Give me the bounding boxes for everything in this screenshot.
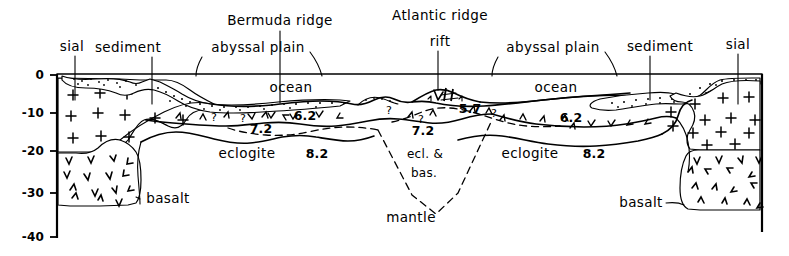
velocity-7-2-left: 7.2 [250,121,273,136]
leader-abyssal-plain-left-b [310,52,322,76]
sial-block-right [670,80,760,150]
velocity-8-2-right: 8.2 [583,146,606,161]
label-eclogite-right: eclogite [502,145,559,161]
label-basalt-right: basalt [619,194,663,210]
leader-abyssal-plain-right-a [492,57,498,76]
label-rift: rift [430,33,451,49]
label-sediment-left: sediment [95,39,161,55]
question-mark-3: ? [418,113,424,126]
label-sial-left: sial [60,38,84,54]
label-ecl-bas-1: ecl. & [407,147,443,161]
label-eclogite-left: eclogite [219,145,276,161]
rift-structure [412,88,480,102]
label-bermuda-ridge: Bermuda ridge [227,12,333,28]
leader-abyssal-plain-right-b [605,52,617,76]
label-mantle: mantle [386,209,436,225]
crust-base-right [458,134,662,146]
seafloor-left [212,93,630,106]
axis-tick-minus20: -20 [22,144,44,158]
label-atlantic-ridge: Atlantic ridge [392,7,488,23]
label-sial-right: sial [726,36,750,52]
axis-tick-minus10: -10 [22,106,44,120]
leader-basalt-right [666,203,684,205]
label-ecl-bas-2: bas. [411,166,437,180]
label-ocean-left: ocean [270,79,313,95]
label-abyssal-plain-left: abyssal plain [211,39,304,55]
label-sediment-right: sediment [627,38,693,54]
label-abyssal-plain-right: abyssal plain [506,39,599,55]
velocity-5-7: 5.7 [459,101,482,116]
axis-tick-minus40: -40 [22,230,44,244]
velocity-6-2-left: 6.2 [294,108,317,123]
axis-tick-0: 0 [35,68,44,82]
question-mark-2: ? [386,104,392,117]
question-mark-4: ? [491,107,497,120]
cross-section-figure: Bermuda ridge Atlantic ridge rift sial s… [0,0,789,256]
axis-tick-labels: 0 -10 -20 -30 -40 [22,68,44,244]
cross-section-svg: Bermuda ridge Atlantic ridge rift sial s… [0,0,789,256]
leader-abyssal-plain-left-a [196,57,202,76]
question-mark-1: ? [211,111,217,124]
question-mark-5: ? [240,112,246,125]
label-ocean-right: ocean [535,79,578,95]
depth-axis [50,74,57,238]
axis-tick-minus30: -30 [22,186,44,200]
velocity-6-2-right: 6.2 [560,110,583,125]
label-basalt-left: basalt [146,190,190,206]
velocity-8-2-left: 8.2 [306,146,329,161]
